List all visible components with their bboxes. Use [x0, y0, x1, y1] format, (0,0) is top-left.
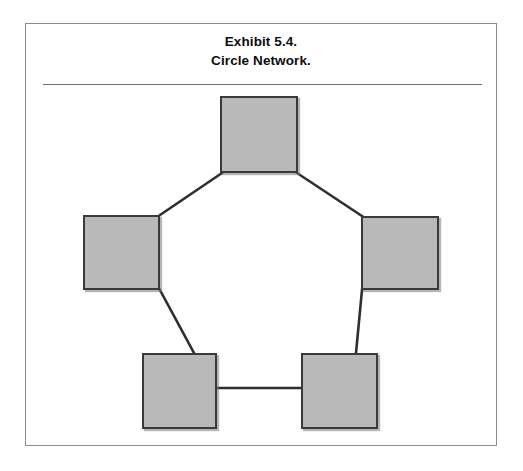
- node-top[interactable]: [220, 96, 298, 173]
- node-right[interactable]: [361, 216, 439, 290]
- circle-network-diagram: [26, 24, 498, 447]
- edge-top-to-right: [297, 173, 362, 216]
- edge-top-to-left: [160, 173, 222, 215]
- node-left[interactable]: [83, 215, 160, 290]
- node-bottom-right[interactable]: [301, 353, 378, 429]
- edge-right-to-bottom-right: [356, 290, 362, 353]
- node-bottom-left[interactable]: [142, 353, 217, 429]
- edge-left-to-bottom-left: [160, 290, 194, 353]
- exhibit-frame: Exhibit 5.4. Circle Network.: [25, 23, 497, 446]
